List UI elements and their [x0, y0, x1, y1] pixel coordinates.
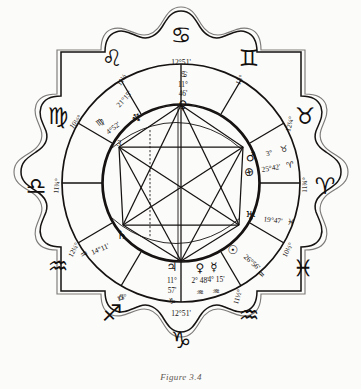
- sign-glyph-leo: ♌: [102, 45, 123, 71]
- planet-venus-top: ♋ 11° 46' ♀: [178, 68, 189, 112]
- sign-glyph-capricorn: ♑: [171, 327, 192, 353]
- sign-glyph-libra: ♎: [26, 173, 47, 199]
- sign-glyph-taurus-small: ♉: [279, 143, 289, 155]
- planet-venus-mercury-cluster: ♀ ☿ 2° 48' 4° 15' ♒ ♒: [191, 260, 225, 297]
- sign-glyph-cancer-small: ♋: [179, 68, 189, 79]
- cusp-spoke-2: [221, 80, 241, 114]
- house-number-6: 6: [119, 292, 124, 302]
- sign-glyph-aquarius-left: ♒: [48, 253, 69, 279]
- aspect-line-5: [119, 147, 239, 225]
- sign-glyph-aquarius-right: ♒: [239, 302, 260, 328]
- planet-earth-degrees: 25°42': [261, 162, 282, 174]
- aspect-line-3: [123, 147, 243, 225]
- planet-glyph-sun: ☉: [228, 243, 239, 257]
- sign-glyph-taurus: ♉: [295, 103, 316, 129]
- planet-glyph-mercury: ☿: [210, 260, 217, 274]
- sign-glyph-aquarius-mercury: ♒: [212, 286, 220, 296]
- planet-jupiter-minutes: 57': [168, 286, 177, 295]
- sign-glyph-virgo: ♍: [48, 103, 69, 129]
- planet-glyph-jupiter: ♃: [167, 260, 178, 274]
- sign-glyph-virgo-small: ♍: [94, 115, 106, 128]
- house-number-3: 3: [116, 138, 122, 148]
- cusp-degree-libra: 11¾°: [52, 178, 62, 194]
- planet-saturn-degrees: 14°11': [90, 241, 111, 257]
- cusp-spoke-8: [121, 252, 141, 286]
- cusp-degree-aries: 11¾°: [301, 177, 310, 193]
- planet-neptune: 21°15' ♆: [114, 88, 145, 126]
- planet-venus-top-minutes: 46': [179, 89, 188, 98]
- chart-canvas: ♋ ♊ ♉ ♈ ♓ ♒ ♑ ♐ ♒ ♎ ♍ ♌ 12°51' 13° 12¼° …: [0, 0, 361, 389]
- sign-glyph-sagittarius: ♐: [102, 300, 123, 326]
- sign-glyph-aries-small: ♈: [285, 159, 295, 170]
- planet-mars-degrees: 3°: [265, 148, 274, 158]
- sign-glyph-pisces-small: ♓: [287, 217, 296, 228]
- planet-sun: ☉ 26°56' ♒: [228, 243, 268, 280]
- planet-neptune-degrees: 21°15': [114, 88, 134, 109]
- planet-virgo-point: ♍ 4°52' 3: [94, 115, 122, 148]
- planet-placements: ♋ 11° 46' ♀ 21°15' ♆ ♍ 4°52' 3 ♂ 3° ♉: [78, 68, 295, 306]
- sign-glyph-gemini: ♊: [239, 45, 260, 71]
- planet-glyph-earth: ⊕: [243, 164, 255, 180]
- planet-glyph-mars: ♂: [244, 149, 258, 165]
- planet-glyph-venus-top: ♀: [179, 98, 188, 112]
- sign-glyph-capricorn-small: ♑: [168, 296, 176, 306]
- planet-uranus-degrees: 19°47': [263, 214, 284, 226]
- planet-venus-top-degrees: 11°: [178, 80, 188, 89]
- planet-mercury-degrees: 4° 15': [207, 275, 225, 284]
- inner-scallop-top: [112, 123, 240, 149]
- planet-glyph-uranus: ♅: [246, 209, 257, 223]
- sign-glyph-pisces: ♓: [293, 255, 314, 281]
- sign-glyph-aries: ♈: [315, 173, 336, 199]
- cusp-spoke-5: [250, 223, 284, 243]
- cusp-spoke-9: [78, 223, 112, 243]
- astrology-chart-figure: ♋ ♊ ♉ ♈ ♓ ♒ ♑ ♐ ♒ ♎ ♍ ♌ 12°51' 13° 12¼° …: [0, 0, 361, 389]
- sign-glyph-cancer: ♋: [171, 22, 192, 48]
- planet-glyph-saturn: ♄: [117, 228, 128, 242]
- planet-glyph-venus: ♀: [196, 261, 205, 275]
- cusp-degree-capricorn: 12°51': [171, 309, 191, 318]
- cusp-spoke-3: [250, 123, 284, 143]
- planet-jupiter-degrees: 11°: [167, 276, 177, 285]
- planet-jupiter: ♃ 11° 57' ♑: [167, 260, 178, 306]
- planet-saturn: ♄ 14°11' ♒: [78, 228, 127, 260]
- sign-glyph-aquarius-venus: ♒: [196, 287, 204, 297]
- cusp-degree-taurus: 12¼°: [284, 115, 296, 132]
- figure-caption: Figure 3.4: [159, 372, 202, 382]
